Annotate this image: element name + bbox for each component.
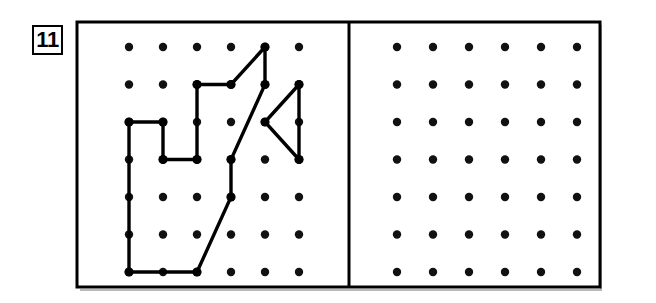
left-grid-dot-r4-c1 <box>159 193 167 201</box>
left-grid-dot-r0-c0 <box>125 43 133 51</box>
worksheet-page: 11 <box>0 0 656 303</box>
left-grid-dot-r5-c1 <box>159 230 167 238</box>
vertex-triangle-2 <box>294 155 303 164</box>
right-grid-dot-r2-c0 <box>393 118 401 126</box>
right-grid-dot-r6-c4 <box>537 268 545 276</box>
left-grid-dot-r1-c1 <box>159 80 167 88</box>
right-grid-dot-r0-c3 <box>501 43 509 51</box>
vertex-main-outline-7 <box>260 80 269 89</box>
right-grid-dot-r6-c5 <box>573 268 581 276</box>
left-panel-dot-grid <box>125 43 303 276</box>
right-grid-dot-r1-c0 <box>393 80 401 88</box>
vertex-main-outline-8 <box>226 155 235 164</box>
right-grid-dot-r5-c1 <box>429 230 437 238</box>
right-grid-dot-r2-c4 <box>537 118 545 126</box>
right-grid-dot-r6-c3 <box>501 268 509 276</box>
vertex-triangle-1 <box>294 80 303 89</box>
right-grid-dot-r2-c5 <box>573 118 581 126</box>
right-grid-dot-r1-c2 <box>465 80 473 88</box>
right-grid-dot-r4-c5 <box>573 193 581 201</box>
left-grid-dot-r6-c4 <box>261 268 269 276</box>
left-grid-dot-r5-c3 <box>227 230 235 238</box>
shape-path-triangle <box>265 85 299 160</box>
left-grid-dot-r6-c3 <box>227 268 235 276</box>
right-grid-dot-r6-c1 <box>429 268 437 276</box>
right-grid-dot-r4-c1 <box>429 193 437 201</box>
right-grid-dot-r5-c3 <box>501 230 509 238</box>
right-grid-dot-r6-c0 <box>393 268 401 276</box>
right-grid-dot-r2-c2 <box>465 118 473 126</box>
left-grid-dot-r4-c2 <box>193 193 201 201</box>
vertex-main-outline-5 <box>226 80 235 89</box>
left-grid-dot-r4-c5 <box>295 193 303 201</box>
right-grid-dot-r3-c0 <box>393 155 401 163</box>
vertex-main-outline-1 <box>158 117 167 126</box>
right-grid-dot-r0-c5 <box>573 43 581 51</box>
vertex-main-outline-10 <box>192 267 201 276</box>
board-frame <box>77 22 600 287</box>
vertex-main-outline-6 <box>260 42 269 51</box>
left-grid-dot-r0-c1 <box>159 43 167 51</box>
right-grid-dot-r5-c5 <box>573 230 581 238</box>
right-grid-dot-r1-c5 <box>573 80 581 88</box>
left-grid-dot-r1-c0 <box>125 80 133 88</box>
right-grid-dot-r5-c4 <box>537 230 545 238</box>
vertex-main-outline-9 <box>226 192 235 201</box>
shape-vertex-dots <box>124 42 303 276</box>
vertex-triangle-0 <box>260 117 269 126</box>
right-grid-dot-r6-c2 <box>465 268 473 276</box>
right-grid-dot-r1-c4 <box>537 80 545 88</box>
left-grid-dot-r5-c2 <box>193 230 201 238</box>
right-grid-dot-r3-c5 <box>573 155 581 163</box>
right-grid-dot-r3-c4 <box>537 155 545 163</box>
right-grid-dot-r2-c1 <box>429 118 437 126</box>
right-panel-dot-grid <box>393 43 581 276</box>
vertex-main-outline-0 <box>124 117 133 126</box>
left-grid-dot-r0-c2 <box>193 43 201 51</box>
left-grid-dot-r0-c3 <box>227 43 235 51</box>
right-grid-dot-r1-c1 <box>429 80 437 88</box>
left-grid-dot-r5-c5 <box>295 230 303 238</box>
right-grid-dot-r4-c3 <box>501 193 509 201</box>
left-grid-dot-r5-c4 <box>261 230 269 238</box>
right-grid-dot-r3-c2 <box>465 155 473 163</box>
left-grid-dot-r4-c4 <box>261 193 269 201</box>
vertex-main-outline-11 <box>124 267 133 276</box>
right-grid-dot-r5-c2 <box>465 230 473 238</box>
right-grid-dot-r0-c2 <box>465 43 473 51</box>
right-grid-dot-r4-c4 <box>537 193 545 201</box>
vertex-main-outline-2 <box>158 155 167 164</box>
right-grid-dot-r2-c3 <box>501 118 509 126</box>
right-grid-dot-r0-c1 <box>429 43 437 51</box>
right-grid-dot-r4-c2 <box>465 193 473 201</box>
left-grid-dot-r0-c5 <box>295 43 303 51</box>
left-grid-dot-r6-c5 <box>295 268 303 276</box>
right-grid-dot-r0-c4 <box>537 43 545 51</box>
shape-outline <box>129 47 299 272</box>
vertex-main-outline-4 <box>192 80 201 89</box>
right-grid-dot-r3-c3 <box>501 155 509 163</box>
right-grid-dot-r3-c1 <box>429 155 437 163</box>
right-grid-dot-r1-c3 <box>501 80 509 88</box>
left-grid-dot-r3-c4 <box>261 155 269 163</box>
left-grid-dot-r2-c3 <box>227 118 235 126</box>
right-grid-dot-r0-c0 <box>393 43 401 51</box>
right-grid-dot-r4-c0 <box>393 193 401 201</box>
right-grid-dot-r5-c0 <box>393 230 401 238</box>
board-outer-rect <box>77 22 600 287</box>
vertex-main-outline-3 <box>192 155 201 164</box>
geoboard-diagram <box>0 0 656 303</box>
